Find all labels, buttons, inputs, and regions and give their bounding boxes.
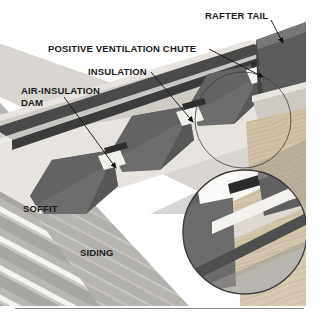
label-siding: SIDING	[80, 247, 114, 259]
illustration-figure: RAFTER TAIL POSITIVE VENTILATION CHUTE I…	[0, 0, 319, 318]
bottom-divider-rule	[15, 308, 304, 309]
label-layer: RAFTER TAIL POSITIVE VENTILATION CHUTE I…	[0, 0, 319, 318]
label-rafter-tail: RAFTER TAIL	[205, 10, 268, 22]
label-insulation: INSULATION	[88, 66, 147, 78]
label-soffit: SOFFIT	[23, 203, 58, 215]
label-ventilation-chute: POSITIVE VENTILATION CHUTE	[48, 43, 196, 55]
label-air-insulation-dam: AIR-INSULATION DAM	[21, 85, 100, 108]
